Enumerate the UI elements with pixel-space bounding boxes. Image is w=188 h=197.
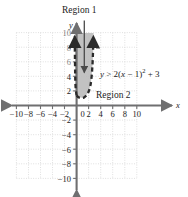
y-tick-label: −2	[56, 116, 71, 125]
inequality-annotation: y > 2(x − 1)2 + 3	[100, 68, 159, 79]
x-tick-label: 6	[108, 110, 118, 119]
x-tick-label: 8	[120, 110, 130, 119]
inequality-variable: x	[121, 69, 125, 79]
y-tick-label: −4	[56, 131, 71, 140]
coordinate-plane	[0, 0, 188, 197]
y-tick-label: 2	[56, 87, 71, 96]
inequality-plus: +	[148, 69, 153, 79]
y-tick-label: 6	[56, 58, 71, 67]
y-tick-label: 8	[56, 44, 71, 53]
region-2-label: Region 2	[96, 91, 131, 101]
y-tick-label: 4	[56, 73, 71, 82]
y-tick-label: −6	[56, 146, 71, 155]
inequality-lhs: y	[100, 69, 104, 79]
inequality-operator: >	[106, 69, 111, 79]
inequality-exponent: 2	[142, 67, 145, 74]
y-tick-label: −8	[56, 160, 71, 169]
x-tick-label: 10	[130, 110, 144, 119]
x-tick-label: 4	[96, 110, 106, 119]
x-tick-label: 2	[84, 110, 94, 119]
y-tick-label: 10	[56, 29, 71, 38]
inequality-minus: −	[127, 69, 132, 79]
region-1-label: Region 1	[62, 6, 97, 16]
y-tick-label: −10	[52, 175, 71, 184]
inequality-constant: 3	[155, 69, 160, 79]
x-axis-label: x	[176, 101, 180, 110]
parabola-inequality-figure: Region 1 Region 2 x y y > 2(x − 1)2 + 3 …	[0, 0, 188, 197]
